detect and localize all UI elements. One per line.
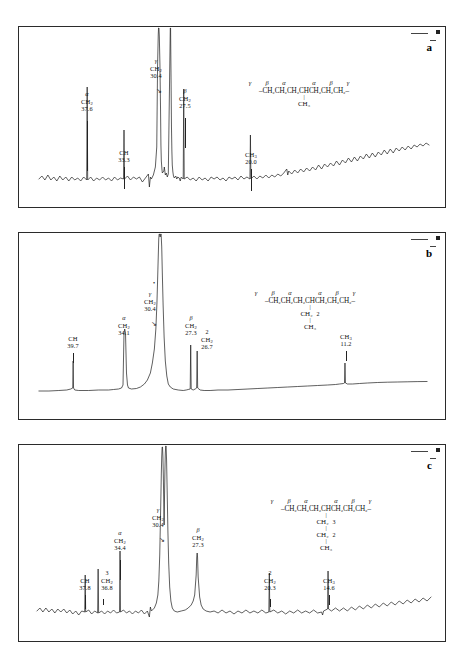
leader-c-7 — [329, 595, 330, 605]
peak-shift: 27.3 — [192, 541, 204, 548]
peak-greek: β — [179, 88, 191, 95]
peak-index: 2 — [201, 329, 213, 336]
peak-label-b-4: β CH2 27.3 — [185, 315, 197, 336]
peak-greek: γ — [152, 507, 164, 514]
structure-a: γ β α α β γ –CH₂CH₂CH₂CHCH₂CH₂CH₂– | CH₃ — [229, 79, 379, 108]
peak-species: CH — [67, 335, 78, 342]
peak-shift: 11.2 — [340, 340, 352, 347]
peak-greek: γ — [150, 58, 162, 65]
peak-species: CH3 — [340, 333, 352, 340]
peak-species: CH2 — [179, 95, 191, 102]
peak-index: 2 — [264, 570, 276, 577]
peak-species: CH — [79, 577, 90, 584]
peak-species: CH2 — [192, 534, 204, 541]
peak-label-b-5: 2 CH2 26.7 — [201, 329, 213, 350]
peak-greek: α — [118, 315, 130, 322]
nmr-figure: a α CH2 37.6 CH 33.3 γ CH2 30.4 — [0, 0, 462, 657]
peak-label-b-1: CH 39.7 — [67, 335, 78, 349]
peak-label-c-1: CH 37.8 — [79, 577, 90, 591]
peak-shift: 37.6 — [81, 105, 93, 112]
peak-species: CH2 — [152, 514, 164, 521]
peak-label-c-4: γ CH2 30.4 — [152, 507, 164, 528]
structure-branch-b-2: CH₃ — [235, 323, 385, 331]
peak-label-c-6: 2 CH2 20.3 — [264, 570, 276, 591]
peak-shift: 36.8 — [101, 584, 113, 591]
peak-species: CH2 — [118, 322, 130, 329]
peak-greek: β — [192, 527, 204, 534]
peak-label-a-4: β CH2 27.5 — [179, 88, 191, 109]
leader-b-1 — [73, 353, 74, 363]
peak-shift: 27.3 — [185, 329, 197, 336]
peak-label-a-2: CH 33.3 — [118, 149, 129, 163]
peak-shift: 34.1 — [118, 329, 130, 336]
spectrum-panel-a: a α CH2 37.6 CH 33.3 γ CH2 30.4 — [18, 26, 446, 208]
peak-shift: 26.7 — [201, 343, 213, 350]
leader-c-6 — [270, 599, 271, 607]
peak-shift: 27.5 — [179, 102, 191, 109]
structure-b: γ β α α β γ –CH₂CH₂CH₂CHCH₂CH₂CH₂– | CH₂… — [235, 289, 385, 331]
peak-species: CH3 — [323, 577, 335, 584]
peak-greek: β — [185, 315, 197, 322]
peak-shift: 30.4 — [152, 521, 164, 528]
peak-label-c-2: 3 CH2 36.8 — [101, 570, 113, 591]
structure-branch-c-3: CH₃ — [251, 544, 401, 552]
peak-shift: 33.3 — [118, 156, 129, 163]
peak-label-a-5: CH3 20.0 — [245, 151, 257, 165]
peak-species: CH2 — [101, 577, 113, 584]
peak-label-b-6: CH3 11.2 — [340, 333, 352, 347]
structure-branch-c-2: CH₂2 — [251, 531, 401, 539]
peak-label-c-7: CH3 14.6 — [323, 577, 335, 591]
peak-species: CH2 — [114, 537, 126, 544]
leader-c-2 — [103, 599, 104, 605]
peak-label-c-3: α CH2 34.4 — [114, 530, 126, 551]
peak-label-a-3: γ CH2 30.4 — [150, 58, 162, 79]
peak-label-b-2: α CH2 34.1 — [118, 315, 130, 336]
structure-branch-c-1: CH₂3 — [251, 518, 401, 526]
peak-species: CH3 — [245, 151, 257, 158]
peak-species: CH2 — [264, 577, 276, 584]
structure-greek-row-a: γ β α α β γ — [229, 79, 379, 87]
peak-label-c-5: β CH2 27.3 — [192, 527, 204, 548]
leader-arrow-c-4: ↘ — [159, 537, 165, 544]
structure-branch-a-1: CH₃ — [229, 100, 379, 108]
peak-species: CH — [118, 149, 129, 156]
peak-shift: 14.6 — [323, 584, 335, 591]
leader-c-1 — [85, 595, 86, 609]
leader-a-4 — [185, 118, 186, 148]
leader-b-6 — [346, 351, 347, 361]
peak-index: 3 — [101, 570, 113, 577]
leader-a-1 — [87, 121, 88, 171]
leader-arrow-b-3: ↘ — [151, 321, 157, 328]
structure-c: γ β α α β γ –CH₂CH₂CH₂CHCH₂CH₂CH₂– | CH₂… — [251, 497, 401, 552]
structure-greek-row-c: γ β α α β γ — [251, 497, 401, 505]
peak-shift: 20.3 — [264, 584, 276, 591]
peak-species: CH2 — [144, 298, 156, 305]
peak-greek: α — [114, 530, 126, 537]
peak-label-a-1: α CH2 37.6 — [81, 91, 93, 112]
structure-greek-row-b: γ β α α β γ — [235, 289, 385, 297]
peak-shift: 39.7 — [67, 342, 78, 349]
peak-shift: 34.4 — [114, 544, 126, 551]
leader-a-5 — [251, 169, 252, 191]
peak-species: CH2 — [150, 65, 162, 72]
peak-species: CH2 — [201, 336, 213, 343]
peak-shift: 20.0 — [245, 158, 257, 165]
peak-species: CH2 — [81, 98, 93, 105]
leader-c-3 — [120, 560, 121, 580]
peak-label-b-3: γ CH2 30.4 — [144, 291, 156, 312]
peak-greek: γ — [144, 291, 156, 298]
peak-greek: α — [81, 91, 93, 98]
peak-species: CH2 — [185, 322, 197, 329]
peak-shift: 37.8 — [79, 584, 90, 591]
leader-arrow-a-3: ↘ — [156, 88, 162, 95]
peak-shift: 30.4 — [150, 72, 162, 79]
spectrum-panel-b: b • CH 39.7 α CH2 34.1 γ CH — [18, 232, 446, 420]
peak-tick-mark-b: • — [153, 280, 155, 286]
spectrum-panel-c: c CH 37.8 3 CH2 36.8 α CH2 34.4 — [18, 444, 446, 642]
leader-a-2 — [124, 167, 125, 189]
peak-shift: 30.4 — [144, 305, 156, 312]
spectrum-trace-a — [19, 27, 445, 207]
structure-branch-b-1: CH₂2 — [235, 310, 385, 318]
